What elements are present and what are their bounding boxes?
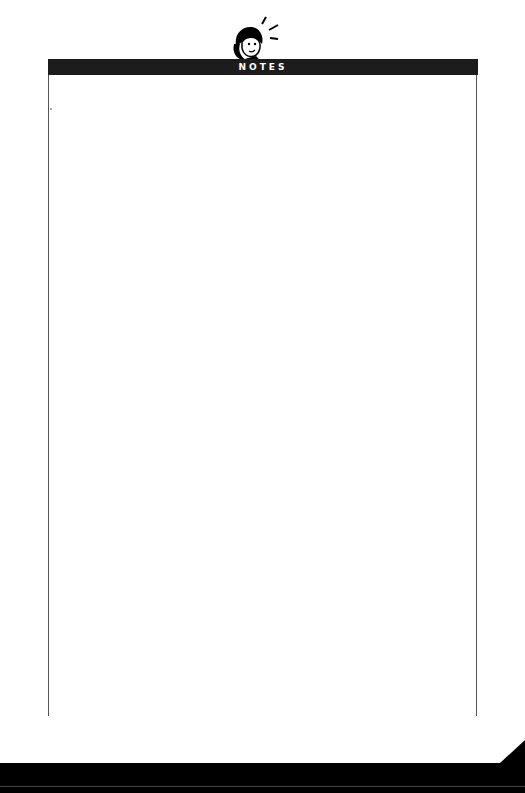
notes-title: NOTES: [239, 62, 288, 72]
person-thinking-icon: [226, 14, 296, 60]
right-border-rule: [476, 75, 477, 716]
bottom-black-band: [0, 763, 525, 793]
left-border-rule: [48, 75, 49, 716]
bottom-line: [0, 786, 525, 787]
notes-header-bar: NOTES: [48, 59, 478, 75]
speck: [50, 108, 52, 110]
bottom-corner-shape: [500, 740, 525, 763]
